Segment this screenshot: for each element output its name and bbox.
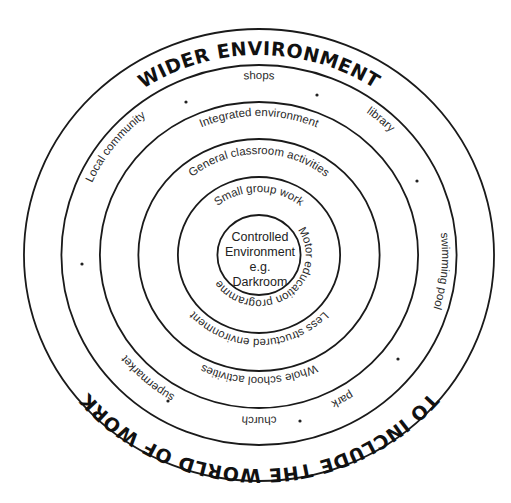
label-library-path: library: [365, 104, 397, 134]
separator-dot: [315, 93, 318, 96]
title-world-of-work: TO INCLUDE THE WORLD OF WORK: [74, 389, 443, 487]
label-park: park: [330, 389, 356, 410]
label-local-community-path: Local community: [83, 109, 147, 184]
separator-dot: [298, 419, 301, 422]
separator-dot: [184, 100, 187, 103]
label-shops: shops: [243, 69, 275, 82]
core-line-3: e.g.: [250, 260, 271, 274]
label-church-path: church: [241, 414, 277, 427]
core-line-4: Darkroom: [233, 275, 288, 289]
core-line-2: Environment: [225, 245, 296, 259]
label-park-path: park: [330, 389, 356, 410]
core-line-1: Controlled: [232, 230, 289, 244]
core-group: Controlled Environment e.g. Darkroom: [225, 230, 296, 289]
separator-dot: [396, 357, 399, 360]
label-whole-school-activities-path: Whole school activities: [198, 362, 319, 387]
label-church: church: [241, 414, 277, 427]
separator-dot: [415, 179, 418, 182]
label-integrated-environment-path: Integrated environment: [198, 106, 322, 130]
label-local-community: Local community: [83, 109, 147, 184]
label-swimming-pool-path: swimming pool: [432, 232, 452, 311]
concentric-environment-diagram: WIDER ENVIRONMENTTO INCLUDE THE WORLD OF…: [0, 0, 511, 503]
label-library: library: [365, 104, 397, 134]
separator-dot: [166, 399, 169, 402]
diagram-canvas: WIDER ENVIRONMENTTO INCLUDE THE WORLD OF…: [0, 0, 511, 503]
label-integrated-environment: Integrated environment: [198, 106, 322, 130]
title-world-of-work-path: TO INCLUDE THE WORLD OF WORK: [74, 389, 443, 487]
label-swimming-pool: swimming pool: [432, 232, 452, 311]
label-small-group-work-path: Small group work: [212, 182, 307, 208]
separator-dot: [80, 262, 83, 265]
labels-group: WIDER ENVIRONMENTTO INCLUDE THE WORLD OF…: [0, 0, 452, 487]
label-whole-school-activities: Whole school activities: [198, 362, 319, 387]
label-small-group-work: Small group work: [212, 182, 307, 208]
label-shops-path: shops: [243, 69, 275, 82]
